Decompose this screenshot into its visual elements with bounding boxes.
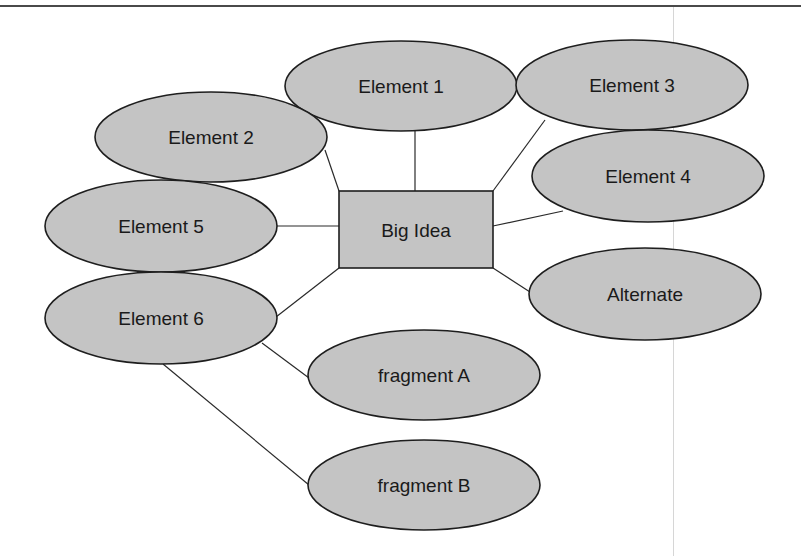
concept-nodes: Element 1Element 2Element 3Element 4Elem… — [45, 40, 764, 530]
node-element-2[interactable]: Element 2 — [95, 92, 327, 182]
node-fragment-b[interactable]: fragment B — [308, 440, 540, 530]
element-3-label: Element 3 — [589, 75, 675, 96]
connector-element-6-to-big-idea — [276, 268, 339, 317]
node-element-3[interactable]: Element 3 — [516, 40, 748, 130]
connector-element-6-to-fragment-a — [262, 343, 309, 378]
big-idea-label: Big Idea — [381, 220, 451, 241]
node-fragment-a[interactable]: fragment A — [308, 330, 540, 420]
fragment-b-label: fragment B — [378, 475, 471, 496]
node-element-4[interactable]: Element 4 — [532, 130, 764, 222]
connector-element-4-to-big-idea — [493, 211, 563, 226]
node-alternate[interactable]: Alternate — [529, 248, 761, 340]
element-4-label: Element 4 — [605, 166, 691, 187]
concept-map-diagram: Element 1Element 2Element 3Element 4Elem… — [0, 0, 801, 556]
fragment-a-label: fragment A — [378, 365, 470, 386]
node-big-idea[interactable]: Big Idea — [339, 191, 493, 268]
node-element-5[interactable]: Element 5 — [45, 180, 277, 272]
node-element-6[interactable]: Element 6 — [45, 272, 277, 364]
element-1-label: Element 1 — [358, 76, 444, 97]
element-2-label: Element 2 — [168, 127, 254, 148]
node-element-1[interactable]: Element 1 — [285, 41, 517, 131]
connector-big-idea-to-alternate — [493, 268, 530, 292]
connector-element-6-to-fragment-b — [163, 364, 309, 485]
alternate-label: Alternate — [607, 284, 683, 305]
element-5-label: Element 5 — [118, 216, 204, 237]
central-idea-group: Big Idea — [339, 191, 493, 268]
element-6-label: Element 6 — [118, 308, 204, 329]
connector-element-2-to-big-idea — [325, 150, 339, 191]
